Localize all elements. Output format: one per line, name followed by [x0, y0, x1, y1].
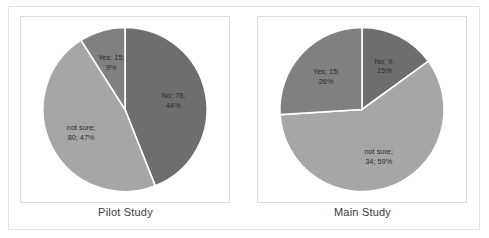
pie-label-yes-line1: Yes; 15; — [313, 67, 339, 76]
chart-panel-main-study: No; 9; 15% not sure; 34; 59% Yes; 15; 26… — [245, 6, 480, 230]
pie-label-not-sure-line1: not sure; — [67, 123, 95, 132]
chart-caption-pilot-study: Pilot Study — [8, 206, 243, 218]
pie-label-no-line2: 15% — [377, 66, 392, 75]
pie-svg-main-study: No; 9; 15% not sure; 34; 59% Yes; 15; 26… — [258, 17, 466, 202]
chart-caption-main-study: Main Study — [245, 206, 480, 218]
pie-label-yes-line2: 9% — [106, 63, 117, 72]
pie-label-yes-line2: 26% — [319, 77, 334, 86]
pie-label-no-line1: No; 9; — [375, 57, 395, 66]
plot-area-main-study: No; 9; 15% not sure; 34; 59% Yes; 15; 26… — [257, 16, 467, 203]
pie-label-no-line1: No; 78; — [162, 91, 186, 100]
pie-svg-pilot-study: No; 78; 44% not sure; 80; 47% Yes; 15; 9… — [21, 17, 229, 202]
pie-label-not-sure-line2: 80; 47% — [68, 133, 95, 142]
pie-label-yes-line1: Yes; 15; — [98, 53, 124, 62]
pie-wrap-pilot-study: No; 78; 44% not sure; 80; 47% Yes; 15; 9… — [21, 17, 229, 202]
pie-label-not-sure-line2: 34; 59% — [365, 157, 392, 166]
pie-slices-main-study — [280, 27, 444, 191]
pie-label-not-sure-line1: not sure; — [364, 147, 392, 156]
pie-wrap-main-study: No; 9; 15% not sure; 34; 59% Yes; 15; 26… — [258, 17, 466, 202]
pie-label-no-line2: 44% — [166, 101, 181, 110]
pie-chart-figure: No; 78; 44% not sure; 80; 47% Yes; 15; 9… — [0, 0, 489, 238]
plot-area-pilot-study: No; 78; 44% not sure; 80; 47% Yes; 15; 9… — [20, 16, 230, 203]
pie-slices-pilot-study — [43, 27, 207, 191]
chart-panel-pilot-study: No; 78; 44% not sure; 80; 47% Yes; 15; 9… — [8, 6, 243, 230]
